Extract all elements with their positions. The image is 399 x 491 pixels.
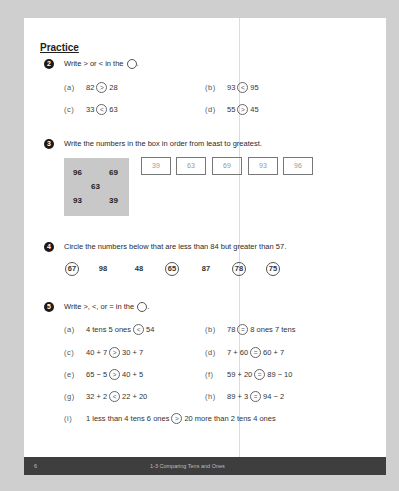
- item-left: 65 − 5: [86, 370, 107, 379]
- q5-item-b: (b) 78 = 8 ones 7 tens: [205, 324, 295, 335]
- item-label: (e): [64, 370, 86, 379]
- page-number: 6: [34, 463, 37, 469]
- q5-item-e: (e) 65 − 5 > 40 + 5: [64, 369, 143, 380]
- item-left: 82: [86, 83, 94, 92]
- item-right: 63: [109, 105, 117, 114]
- box-number: 39: [109, 196, 118, 205]
- comparison-circle[interactable]: =: [250, 391, 261, 402]
- item-left: 1 less than 4 tens 6 ones: [86, 414, 169, 423]
- question-5-badge: 5: [44, 302, 54, 312]
- answer-box-4[interactable]: 93: [248, 157, 278, 175]
- answer-box-1[interactable]: 39: [141, 157, 171, 175]
- q2-item-d: (d) 55 > 45: [205, 104, 259, 115]
- item-left: 89 + 3: [227, 392, 248, 401]
- item-left: 33: [86, 105, 94, 114]
- comparison-circle[interactable]: >: [109, 369, 120, 380]
- question-3-instruction: Write the numbers in the box in order fr…: [64, 139, 262, 148]
- item-left: 93: [227, 83, 235, 92]
- item-right: 28: [109, 83, 117, 92]
- blank-circle-icon: [127, 59, 137, 69]
- item-left: 78: [227, 325, 235, 334]
- question-2-badge: 2: [44, 59, 54, 69]
- item-label: (i): [64, 414, 86, 423]
- comparison-circle[interactable]: <: [109, 391, 120, 402]
- item-label: (h): [205, 392, 227, 401]
- box-number: 69: [109, 168, 118, 177]
- item-right: 95: [250, 83, 258, 92]
- q5-item-a: (a) 4 tens 5 ones < 54: [64, 324, 154, 335]
- blank-circle-icon: [137, 302, 147, 312]
- comparison-circle[interactable]: <: [133, 324, 144, 335]
- question-2-text: Write > or < in the: [64, 59, 123, 68]
- q5-item-d: (d) 7 + 60 = 60 + 7: [205, 347, 284, 358]
- question-2-instruction: Write > or < in the .: [64, 59, 139, 69]
- item-right: 89 − 10: [267, 370, 292, 379]
- comparison-circle[interactable]: >: [237, 104, 248, 115]
- section-title: Practice: [40, 42, 79, 53]
- item-right: 8 ones 7 tens: [250, 325, 295, 334]
- comparison-circle[interactable]: >: [171, 413, 182, 424]
- answer-box-3[interactable]: 69: [212, 157, 242, 175]
- comparison-circle[interactable]: =: [250, 347, 261, 358]
- item-label: (c): [64, 348, 86, 357]
- item-label: (b): [205, 325, 227, 334]
- number-option[interactable]: 48: [132, 262, 146, 276]
- item-label: (d): [205, 348, 227, 357]
- page-footer: 6 1-3 Comparing Tens and Ones: [24, 457, 386, 475]
- question-4-badge: 4: [44, 242, 54, 252]
- q5-item-h: (h) 89 + 3 = 94 − 2: [205, 391, 284, 402]
- worksheet-page: Practice 2 Write > or < in the . (a) 82 …: [24, 18, 386, 475]
- answer-box-2[interactable]: 63: [176, 157, 206, 175]
- number-option-circled[interactable]: 67: [65, 262, 79, 276]
- q2-item-c: (c) 33 < 63: [64, 104, 118, 115]
- box-number: 63: [91, 182, 100, 191]
- comparison-circle[interactable]: =: [254, 369, 265, 380]
- q2-item-a: (a) 82 > 28: [64, 82, 118, 93]
- item-label: (d): [205, 105, 227, 114]
- q2-item-b: (b) 93 < 95: [205, 82, 259, 93]
- box-number: 93: [73, 196, 82, 205]
- item-left: 59 + 20: [227, 370, 252, 379]
- item-right: 30 + 7: [122, 348, 143, 357]
- item-right: 54: [146, 325, 154, 334]
- number-option-circled[interactable]: 78: [232, 262, 246, 276]
- item-right: 45: [250, 105, 258, 114]
- question-3-badge: 3: [44, 139, 54, 149]
- item-left: 7 + 60: [227, 348, 248, 357]
- item-label: (a): [64, 325, 86, 334]
- item-label: (f): [205, 370, 227, 379]
- number-box: 96 69 63 93 39: [64, 158, 129, 216]
- item-right: 40 + 5: [122, 370, 143, 379]
- question-4-instruction: Circle the numbers below that are less t…: [64, 242, 286, 251]
- q5-item-f: (f) 59 + 20 = 89 − 10: [205, 369, 292, 380]
- item-label: (c): [64, 105, 86, 114]
- comparison-circle[interactable]: <: [96, 104, 107, 115]
- item-left: 32 + 2: [86, 392, 107, 401]
- item-right: 94 − 2: [263, 392, 284, 401]
- q5-item-i: (i) 1 less than 4 tens 6 ones > 20 more …: [64, 413, 276, 424]
- number-option-circled[interactable]: 75: [266, 262, 280, 276]
- item-right: 60 + 7: [263, 348, 284, 357]
- number-option[interactable]: 98: [96, 262, 110, 276]
- question-5-instruction: Write >, <, or = in the .: [64, 302, 149, 312]
- q5-item-g: (g) 32 + 2 < 22 + 20: [64, 391, 147, 402]
- number-option-circled[interactable]: 65: [165, 262, 179, 276]
- answer-box-5[interactable]: 96: [283, 157, 313, 175]
- comparison-circle[interactable]: >: [109, 347, 120, 358]
- comparison-circle[interactable]: <: [237, 82, 248, 93]
- item-label: (a): [64, 83, 86, 92]
- comparison-circle[interactable]: >: [96, 82, 107, 93]
- item-left: 40 + 7: [86, 348, 107, 357]
- item-label: (g): [64, 392, 86, 401]
- item-left: 4 tens 5 ones: [86, 325, 131, 334]
- q5-item-c: (c) 40 + 7 > 30 + 7: [64, 347, 143, 358]
- item-left: 55: [227, 105, 235, 114]
- item-right: 22 + 20: [122, 392, 147, 401]
- chapter-title: 1-3 Comparing Tens and Ones: [150, 463, 225, 469]
- item-right: 20 more than 2 tens 4 ones: [184, 414, 275, 423]
- question-5-text: Write >, <, or = in the: [64, 302, 134, 311]
- item-label: (b): [205, 83, 227, 92]
- number-option[interactable]: 87: [199, 262, 213, 276]
- box-number: 96: [73, 168, 82, 177]
- comparison-circle[interactable]: =: [237, 324, 248, 335]
